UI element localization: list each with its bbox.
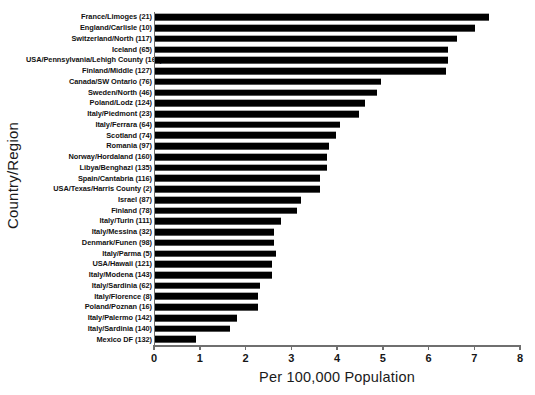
bar <box>155 132 336 139</box>
bar-row <box>155 291 521 302</box>
bar-row <box>155 216 521 227</box>
bar <box>155 218 281 225</box>
bar-row <box>155 323 521 334</box>
bar <box>155 282 260 289</box>
bar-row <box>155 184 521 195</box>
bar <box>155 272 272 279</box>
y-axis-tick-label: Italy/Piedmont (23) <box>26 110 152 117</box>
bar-row <box>155 130 521 141</box>
bar <box>155 239 274 246</box>
bar-row <box>155 227 521 238</box>
bar-row <box>155 334 521 345</box>
bar <box>155 304 258 311</box>
y-axis-tick-label: Italy/Palermo (142) <box>26 314 152 321</box>
x-axis-tick-label: 7 <box>471 352 477 364</box>
bar <box>155 175 320 182</box>
y-axis-tick-label: Finland (78) <box>26 207 152 214</box>
bar-row <box>155 313 521 324</box>
y-axis-tick-label: Italy/Sardinia (140) <box>26 325 152 332</box>
y-axis-tick-label: Switzerland/North (117) <box>26 35 152 42</box>
bar-row <box>155 44 521 55</box>
bar-row <box>155 237 521 248</box>
bar-row <box>155 152 521 163</box>
y-axis-tick-label: Italy/Ferrara (64) <box>26 121 152 128</box>
bar <box>155 229 274 236</box>
bar <box>155 36 457 43</box>
x-axis-tick <box>199 345 201 350</box>
y-axis-tick-label: Sweden/North (46) <box>26 89 152 96</box>
y-axis-tick-label: Spain/Cantabria (116) <box>26 175 152 182</box>
bar-row <box>155 141 521 152</box>
y-axis-tick-label: England/Carlisle (10) <box>26 24 152 31</box>
bar <box>155 100 365 107</box>
bar <box>155 293 258 300</box>
y-axis-tick-label: Denmark/Funen (98) <box>26 239 152 246</box>
bar <box>155 186 320 193</box>
bar-chart: Country/Region France/Limoges (21)Englan… <box>0 0 535 395</box>
bar <box>155 89 377 96</box>
y-axis-tick-label: Libya/Benghazi (135) <box>26 164 152 171</box>
bar <box>155 315 237 322</box>
x-axis-tick-label: 4 <box>334 352 340 364</box>
y-axis-tick-labels: France/Limoges (21)England/Carlisle (10)… <box>26 12 152 345</box>
bar-row <box>155 302 521 313</box>
bar-row <box>155 280 521 291</box>
bar-row <box>155 66 521 77</box>
bar-row <box>155 23 521 34</box>
bar <box>155 207 297 214</box>
x-axis-tick <box>291 345 293 350</box>
y-axis-tick-label: Norway/Hordaland (160) <box>26 153 152 160</box>
y-axis-tick-label: Italy/Florence (8) <box>26 293 152 300</box>
bar <box>155 336 196 343</box>
bar-row <box>155 119 521 130</box>
bar <box>155 68 446 75</box>
bar <box>155 197 301 204</box>
bar-row <box>155 259 521 270</box>
bar <box>155 154 327 161</box>
bar <box>155 325 230 332</box>
x-axis-tick <box>153 345 155 350</box>
x-axis-tick-label: 5 <box>380 352 386 364</box>
x-axis-tick <box>474 345 476 350</box>
bar-row <box>155 194 521 205</box>
bar-row <box>155 33 521 44</box>
x-axis-tick-label: 2 <box>242 352 248 364</box>
bar-row <box>155 76 521 87</box>
bar-row <box>155 98 521 109</box>
x-axis-tick-label: 8 <box>517 352 523 364</box>
bar <box>155 261 272 268</box>
bar-row <box>155 270 521 281</box>
bar <box>155 78 381 85</box>
y-axis-tick-label: Poland/Poznan (16) <box>26 304 152 311</box>
x-axis-tick-label: 0 <box>151 352 157 364</box>
bar <box>155 250 276 257</box>
x-axis-tick <box>382 345 384 350</box>
y-axis-tick-label: USA/Pennsylvania/Lehigh County (166) <box>26 57 152 64</box>
x-axis-tick <box>336 345 338 350</box>
y-axis-tick-label: Italy/Turin (111) <box>26 218 152 225</box>
y-axis-title-text: Country/Region <box>5 121 22 228</box>
bar-row <box>155 87 521 98</box>
bar <box>155 46 448 53</box>
bar <box>155 164 327 171</box>
y-axis-tick-label: Italy/Messina (32) <box>26 229 152 236</box>
y-axis-tick-label: Italy/Modena (143) <box>26 271 152 278</box>
x-axis-tick <box>519 345 521 350</box>
bar <box>155 143 329 150</box>
y-axis-tick-label: Finland/Middle (127) <box>26 67 152 74</box>
bar-row <box>155 173 521 184</box>
x-axis-tick-label: 6 <box>425 352 431 364</box>
bar-row <box>155 55 521 66</box>
y-axis-tick-label: Italy/Sardinia (62) <box>26 282 152 289</box>
bar <box>155 25 475 32</box>
y-axis-tick-label: Canada/SW Ontario (76) <box>26 78 152 85</box>
x-axis-tick-label: 1 <box>197 352 203 364</box>
y-axis-title: Country/Region <box>0 0 26 350</box>
y-axis-tick-label: Iceland (65) <box>26 46 152 53</box>
y-axis-tick-label: Italy/Parma (5) <box>26 250 152 257</box>
bar <box>155 14 489 21</box>
x-axis-title: Per 100,000 Population <box>154 369 520 385</box>
x-axis-tick <box>245 345 247 350</box>
bar <box>155 121 340 128</box>
bar-row <box>155 205 521 216</box>
